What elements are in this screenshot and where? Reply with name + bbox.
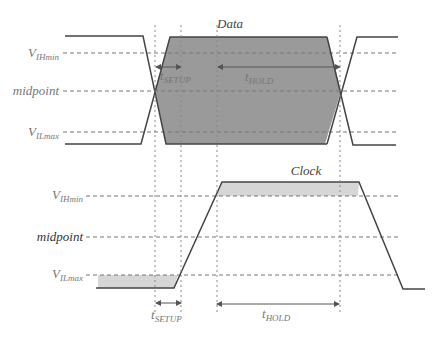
clock-midpoint-label: midpoint — [37, 229, 84, 244]
clock-hold-label: tHOLD — [262, 306, 291, 323]
clock-high-region — [217, 182, 359, 196]
clock-vih-label: VIHmin — [52, 187, 83, 204]
clock-vil-label: VILmax — [52, 266, 83, 283]
data-title: Data — [216, 16, 244, 31]
data-midpoint-label: midpoint — [13, 83, 60, 98]
clock-signal — [96, 182, 425, 289]
clock-setup-label: tSETUP — [151, 307, 182, 324]
clock-title: Clock — [291, 163, 322, 178]
data-vih-label: VIHmin — [28, 45, 59, 62]
timing-diagram: Data VIHmin midpoint VILmax tSETUP tHOLD — [0, 0, 443, 339]
clock-low-region — [98, 275, 178, 288]
clock-waveform-panel: Clock VIHmin midpoint VILmax tSETUP tHOL… — [37, 163, 425, 324]
data-vil-label: VILmax — [28, 124, 59, 141]
